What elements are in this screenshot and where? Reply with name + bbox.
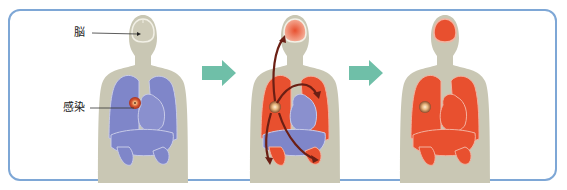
figure-stage-3 [400, 15, 490, 183]
brain-icon [284, 19, 306, 42]
infection-label: 感染 [63, 102, 85, 114]
step-arrow-2-icon [349, 60, 383, 86]
brain-label: 脳 [74, 27, 85, 39]
figure-stage-2 [250, 15, 340, 183]
infection-site-icon [269, 101, 281, 113]
infection-site-icon [129, 97, 141, 109]
figure-stage-1 [98, 15, 188, 183]
step-arrow-1-icon [202, 60, 236, 86]
infection-site-icon [419, 101, 431, 113]
brain-icon [434, 19, 456, 42]
diagram-canvas [0, 0, 567, 190]
